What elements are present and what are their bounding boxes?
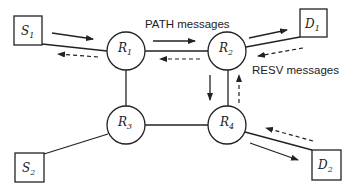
resv-messages-label: RESV messages <box>252 64 339 76</box>
path-arrow-icon <box>52 33 93 39</box>
links <box>42 37 312 154</box>
path-arrow-icon <box>250 143 298 160</box>
link-s1-r1 <box>42 44 107 51</box>
path-arrow-icon <box>249 30 287 38</box>
resv-arrows <box>58 48 313 141</box>
link-r3-s2 <box>44 134 108 154</box>
link-r4-d2 <box>245 132 312 150</box>
link-r2-d1 <box>246 37 300 47</box>
path-messages-label: PATH messages <box>145 18 230 30</box>
rsvp-diagram: S1 S2 D1 D2 R1 R2 R3 R4 PATH messages RE… <box>0 0 354 190</box>
resv-arrow-icon <box>258 48 303 56</box>
resv-arrow-icon <box>58 54 98 57</box>
